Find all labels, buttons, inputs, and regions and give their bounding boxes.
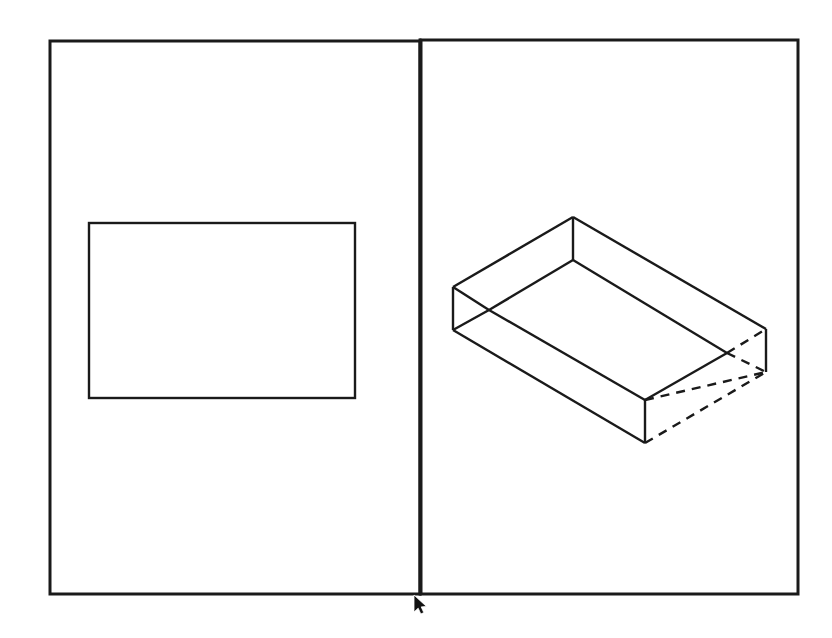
- left-viewport-pane[interactable]: [50, 41, 420, 594]
- app-root: [0, 0, 832, 638]
- splitter-handle[interactable]: [416, 40, 425, 594]
- mouse-pointer-icon: [414, 595, 426, 614]
- right-viewport-pane[interactable]: [421, 40, 798, 594]
